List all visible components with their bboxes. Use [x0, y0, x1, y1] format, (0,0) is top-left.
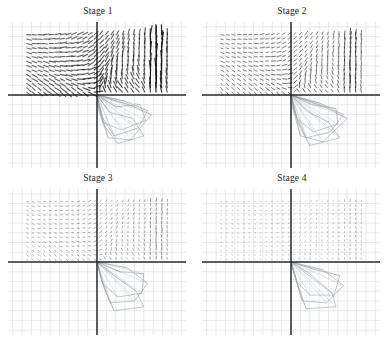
field-vector [83, 210, 85, 211]
field-vector [89, 259, 90, 260]
field-vector [27, 246, 28, 247]
field-vector [122, 209, 123, 210]
field-vector [277, 88, 280, 90]
field-vector [134, 205, 135, 206]
field-vector [100, 231, 102, 232]
field-vector [100, 223, 101, 224]
field-vector [72, 255, 73, 256]
field-vector [328, 32, 329, 35]
field-vector [299, 210, 300, 211]
field-vector [221, 79, 223, 81]
field-vector [127, 248, 128, 250]
field-vector [344, 31, 345, 35]
field-vector [83, 259, 84, 261]
field-vector [132, 258, 133, 259]
field-vector [277, 74, 281, 75]
field-vector [111, 239, 112, 241]
field-vector [32, 250, 34, 251]
field-vector [94, 209, 96, 210]
field-vector [38, 215, 40, 216]
field-vector [316, 32, 318, 35]
field-vector [100, 227, 102, 229]
field-vector [122, 226, 123, 228]
field-vector [294, 250, 295, 251]
field-vector [100, 240, 102, 241]
field-vector [299, 249, 300, 250]
field-vector [89, 255, 91, 256]
field-vector [44, 61, 50, 63]
panel-stage-1: Stage 1 [8, 6, 188, 168]
field-vector [100, 235, 102, 237]
field-vector [117, 48, 119, 52]
field-vector [27, 259, 28, 260]
field-vector [294, 75, 298, 78]
field-vector [132, 79, 134, 83]
field-vector [294, 59, 297, 61]
field-vector [226, 219, 227, 220]
quiver-plot-stage-3 [8, 189, 186, 335]
field-vector [38, 52, 43, 53]
field-vector [66, 259, 68, 261]
field-vector [249, 259, 250, 260]
field-vector [332, 67, 333, 70]
field-vector [299, 245, 300, 246]
field-vector [89, 201, 91, 202]
field-vector [226, 35, 229, 36]
field-vector [249, 250, 250, 251]
field-vector [283, 33, 285, 35]
field-vector [260, 61, 263, 62]
field-vector [260, 70, 264, 71]
field-vector [32, 48, 36, 49]
field-vector [104, 257, 105, 259]
field-vector [128, 29, 130, 35]
field-vector [128, 218, 129, 220]
field-vector [89, 77, 95, 79]
field-vector [266, 250, 267, 251]
field-vector [122, 217, 123, 219]
field-vector [117, 87, 122, 92]
field-vector [254, 70, 257, 71]
field-vector [38, 250, 39, 251]
field-vector [127, 253, 128, 255]
field-vector [322, 48, 323, 52]
field-vector [66, 43, 72, 44]
field-vector [32, 255, 33, 256]
field-vector [283, 64, 288, 65]
figure-panel-grid: Stage 1 Stage 2 Stage 3 Stage 4 [0, 0, 390, 342]
field-vector [310, 80, 311, 83]
field-vector [60, 241, 61, 242]
field-vector [294, 201, 295, 202]
field-vector [322, 32, 323, 35]
field-vector [38, 61, 42, 62]
field-vector [277, 79, 281, 80]
field-vector [55, 61, 60, 62]
field-vector [139, 29, 140, 35]
field-vector [111, 222, 112, 224]
field-vector [305, 31, 307, 34]
field-vector [226, 250, 227, 251]
field-vector [55, 237, 56, 238]
field-vector [133, 248, 134, 250]
field-vector [72, 88, 76, 91]
field-vector [32, 52, 37, 53]
field-vector [72, 259, 73, 260]
field-vector [226, 39, 230, 40]
field-vector [316, 75, 317, 79]
field-vector [277, 47, 280, 48]
field-vector [322, 45, 323, 48]
field-vector [328, 50, 329, 53]
field-vector [44, 237, 45, 238]
field-vector [294, 72, 297, 75]
field-vector [226, 70, 228, 71]
field-vector [311, 49, 313, 53]
panel-title-stage-1: Stage 1 [8, 6, 188, 16]
field-vector [283, 259, 284, 260]
field-vector [254, 259, 255, 260]
field-vector [49, 250, 50, 251]
field-vector [89, 219, 91, 220]
field-vector [254, 92, 256, 95]
field-vector [131, 88, 134, 92]
field-vector [44, 255, 45, 256]
field-vector [139, 244, 140, 246]
field-vector [66, 250, 68, 251]
